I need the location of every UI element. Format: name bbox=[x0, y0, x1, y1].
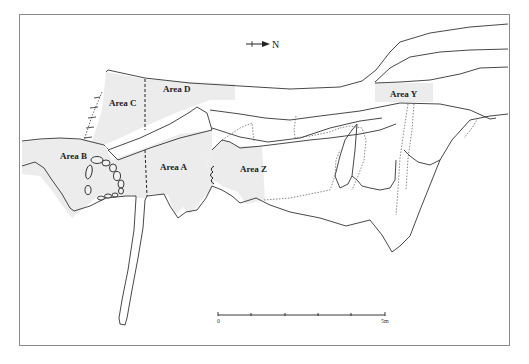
label-area-d: Area D bbox=[163, 84, 191, 94]
area-cd-fill bbox=[92, 72, 235, 145]
scale-end-label: 5m bbox=[381, 318, 389, 324]
north-label: N bbox=[272, 39, 279, 50]
dotted-7 bbox=[464, 118, 478, 138]
label-area-b: Area B bbox=[60, 151, 87, 161]
upper-corridor-branch bbox=[375, 49, 508, 82]
dotted-4 bbox=[340, 126, 366, 190]
dotted-6 bbox=[406, 104, 414, 190]
label-area-a: Area A bbox=[160, 162, 188, 172]
site-plan: Area C Area D Area B Area A Area Z Area … bbox=[0, 0, 529, 364]
north-arrow: N bbox=[246, 39, 279, 50]
scale-start-label: 0 bbox=[217, 318, 220, 324]
inner-loop-3 bbox=[404, 150, 440, 165]
middle-corridor bbox=[210, 103, 496, 120]
dotted-5 bbox=[396, 104, 408, 215]
label-area-z: Area Z bbox=[240, 164, 267, 174]
shaft bbox=[119, 194, 164, 325]
label-area-c: Area C bbox=[109, 98, 137, 108]
upper-corridor-top bbox=[106, 24, 508, 89]
inner-loop-1 bbox=[335, 124, 357, 188]
inner-loop-2 bbox=[352, 160, 396, 190]
arrowhead-icon bbox=[262, 41, 270, 47]
shaded-areas bbox=[22, 72, 433, 218]
scale-bar bbox=[218, 312, 385, 316]
label-area-y: Area Y bbox=[390, 89, 418, 99]
dotted-2 bbox=[264, 150, 340, 200]
upper-corridor-branch2 bbox=[375, 67, 508, 83]
